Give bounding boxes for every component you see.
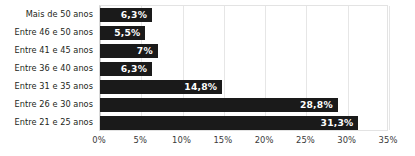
bar-value-label: 6,3% (121, 8, 147, 22)
x-tick-label: 30% (337, 135, 356, 145)
bar-value-label: 7% (137, 44, 153, 58)
x-tick-label: 0% (92, 135, 106, 145)
bar-value-label: 14,8% (184, 80, 217, 94)
bar-value-label: 5,5% (114, 26, 140, 40)
category-label: Entre 36 e 40 anos (0, 63, 93, 73)
x-tick-label: 15% (213, 135, 232, 145)
x-tick-label: 5% (134, 135, 148, 145)
x-axis: 0%5%10%15%20%25%30%35% (99, 131, 388, 155)
bar-value-label: 6,3% (121, 62, 147, 76)
bar-row: 6,3% (100, 62, 389, 76)
x-tick-label: 20% (255, 135, 274, 145)
bar-value-label: 31,3% (321, 116, 354, 130)
x-tick-label: 25% (296, 135, 315, 145)
category-label: Entre 26 e 30 anos (0, 99, 93, 109)
category-label: Entre 46 e 50 anos (0, 27, 93, 37)
bar-row: 28,8% (100, 98, 389, 112)
x-tick-label: 35% (379, 135, 398, 145)
bar-row: 31,3% (100, 116, 389, 130)
bar-value-label: 28,8% (300, 98, 333, 112)
bar-row: 14,8% (100, 80, 389, 94)
bar-chart: Mais de 50 anosEntre 46 e 50 anosEntre 4… (0, 0, 415, 156)
category-label: Entre 41 e 45 anos (0, 45, 93, 55)
gridline-35pct (389, 6, 390, 130)
bar-row: 6,3% (100, 8, 389, 22)
category-label: Entre 31 e 35 anos (0, 81, 93, 91)
category-label: Mais de 50 anos (0, 9, 93, 19)
x-tick-label: 10% (172, 135, 191, 145)
category-axis-labels: Mais de 50 anosEntre 46 e 50 anosEntre 4… (0, 5, 93, 131)
bar-row: 5,5% (100, 26, 389, 40)
bar-row: 7% (100, 44, 389, 58)
plot-area: 6,3%5,5%7%6,3%14,8%28,8%31,3% (99, 5, 388, 131)
category-label: Entre 21 e 25 anos (0, 117, 93, 127)
